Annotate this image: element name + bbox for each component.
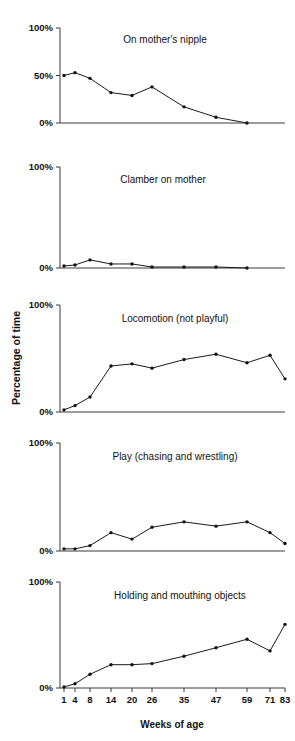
data-point — [88, 395, 91, 398]
panel-title: On mother's nipple — [123, 34, 207, 45]
y-tick-label: 100% — [29, 299, 54, 310]
data-point — [268, 531, 271, 534]
data-point — [62, 408, 65, 411]
chart-panel: 0%100%Clamber on mother — [29, 161, 285, 273]
data-point — [245, 520, 248, 523]
x-tick-label: 35 — [179, 694, 190, 705]
y-tick-label: 0% — [39, 545, 53, 556]
data-point — [245, 638, 248, 641]
chart-panel: 0%50%100%On mother's nipple — [29, 22, 285, 128]
y-tick-label: 100% — [29, 161, 54, 172]
data-point — [109, 364, 112, 367]
data-point — [73, 682, 76, 685]
data-point — [88, 544, 91, 547]
y-tick-label: 0% — [39, 406, 53, 417]
chart-svg: 0%50%100%On mother's nipple0%100%Clamber… — [0, 0, 295, 741]
data-point — [109, 262, 112, 265]
data-point — [150, 366, 153, 369]
data-point — [182, 520, 185, 523]
x-tick-label: 59 — [242, 694, 253, 705]
series-line — [64, 260, 247, 268]
y-axis-title: Percentage of time — [10, 311, 22, 405]
data-point — [109, 91, 112, 94]
series-line — [64, 624, 285, 687]
data-point — [62, 74, 65, 77]
chart-panel: 0%100%Play (chasing and wrestling) — [29, 437, 287, 556]
data-point — [283, 623, 286, 626]
y-tick-label: 100% — [29, 576, 54, 587]
series-line — [64, 522, 285, 549]
data-point — [62, 547, 65, 550]
data-point — [214, 116, 217, 119]
data-point — [214, 646, 217, 649]
data-point — [73, 547, 76, 550]
data-point — [150, 85, 153, 88]
data-point — [245, 361, 248, 364]
data-point — [88, 673, 91, 676]
data-point — [62, 264, 65, 267]
x-tick-label: 20 — [127, 694, 138, 705]
data-point — [130, 362, 133, 365]
data-point — [245, 121, 248, 124]
x-tick-label: 83 — [280, 694, 291, 705]
data-point — [73, 71, 76, 74]
data-point — [73, 263, 76, 266]
y-tick-label: 0% — [39, 262, 53, 273]
chart-panel: 0%100%Locomotion (not playful) — [29, 299, 287, 417]
data-point — [283, 377, 286, 380]
data-point — [245, 266, 248, 269]
data-point — [268, 354, 271, 357]
data-point — [73, 404, 76, 407]
chart-panel: 0%100%Holding and mouthing objects — [29, 576, 287, 693]
data-point — [182, 105, 185, 108]
data-point — [109, 663, 112, 666]
data-point — [214, 265, 217, 268]
x-axis-title: Weeks of age — [140, 719, 204, 730]
data-point — [130, 262, 133, 265]
panel-title: Locomotion (not playful) — [122, 313, 229, 324]
y-tick-label: 100% — [29, 437, 54, 448]
panel-title: Play (chasing and wrestling) — [112, 451, 237, 462]
series-line — [64, 354, 285, 410]
data-point — [268, 649, 271, 652]
data-point — [130, 94, 133, 97]
data-point — [214, 353, 217, 356]
x-tick-label: 47 — [211, 694, 222, 705]
data-point — [283, 542, 286, 545]
x-tick-label: 8 — [87, 694, 92, 705]
multi-panel-line-chart: 0%50%100%On mother's nipple0%100%Clamber… — [0, 0, 295, 741]
x-tick-label: 4 — [72, 694, 78, 705]
x-tick-label: 71 — [265, 694, 276, 705]
y-tick-label: 100% — [29, 22, 54, 33]
data-point — [130, 537, 133, 540]
data-point — [182, 655, 185, 658]
y-tick-label: 0% — [39, 682, 53, 693]
x-tick-label: 1 — [61, 694, 67, 705]
data-point — [182, 358, 185, 361]
y-tick-label: 50% — [34, 70, 54, 81]
panel-title: Holding and mouthing objects — [114, 590, 246, 601]
data-point — [88, 77, 91, 80]
series-line — [64, 73, 247, 123]
data-point — [109, 531, 112, 534]
data-point — [88, 258, 91, 261]
x-axis: 1481420263547597183Weeks of agePercentag… — [10, 311, 290, 730]
data-point — [150, 265, 153, 268]
data-point — [150, 662, 153, 665]
data-point — [130, 663, 133, 666]
panel-title: Clamber on mother — [120, 174, 206, 185]
data-point — [150, 526, 153, 529]
y-tick-label: 0% — [39, 117, 53, 128]
x-tick-label: 14 — [106, 694, 117, 705]
data-point — [182, 265, 185, 268]
x-tick-label: 26 — [147, 694, 158, 705]
data-point — [214, 524, 217, 527]
